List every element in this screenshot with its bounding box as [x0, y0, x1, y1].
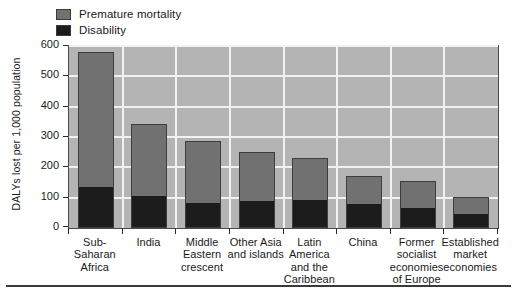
bar-segment-premature-mortality	[346, 176, 382, 205]
category-label-line: market	[439, 248, 501, 260]
category-label-line: Other Asia	[225, 236, 287, 248]
x-tick-3	[229, 228, 230, 234]
category-label-line: Caribbean	[279, 273, 341, 285]
x-tick-5	[336, 228, 337, 234]
bar-1	[131, 124, 167, 228]
vertical-gridline-4	[283, 46, 285, 228]
bar-segment-premature-mortality	[131, 124, 167, 196]
bar-segment-premature-mortality	[453, 197, 489, 213]
bar-6	[400, 181, 436, 228]
x-tick-1	[122, 228, 123, 234]
legend-swatch-premature-mortality	[56, 9, 71, 20]
y-tick-label-500: 500	[25, 69, 59, 80]
category-label-6: Formersocialisteconomiesof Europe	[386, 236, 448, 286]
category-label-line: China	[332, 236, 394, 248]
bar-7	[453, 197, 489, 228]
category-label-1: India	[118, 236, 180, 248]
chart-figure: Premature mortality Disability DALYs los…	[0, 0, 521, 298]
bar-segment-disability	[131, 196, 167, 228]
category-label-5: China	[332, 236, 394, 248]
bar-0	[78, 52, 114, 228]
bar-5	[346, 176, 382, 228]
y-axis-title: DALYs lost per 1,000 population	[10, 44, 22, 224]
bottom-rule	[6, 285, 511, 287]
category-label-line: India	[118, 236, 180, 248]
category-label-line: of Europe	[386, 273, 448, 285]
bar-segment-disability	[185, 203, 221, 228]
category-label-line: economies	[386, 261, 448, 273]
vertical-gridline-2	[175, 46, 177, 228]
x-tick-4	[283, 228, 284, 234]
vertical-gridline-1	[122, 46, 124, 228]
category-label-line: socialist	[386, 248, 448, 260]
vertical-gridline-3	[229, 46, 231, 228]
category-label-line: and islands	[225, 248, 287, 260]
x-tick-7	[443, 228, 444, 234]
bar-segment-disability	[400, 208, 436, 228]
category-label-3: Other Asiaand islands	[225, 236, 287, 261]
bar-2	[185, 141, 221, 228]
bar-segment-premature-mortality	[400, 181, 436, 208]
bar-segment-disability	[78, 187, 114, 228]
x-tick-end	[497, 228, 498, 234]
bar-segment-disability	[346, 204, 382, 228]
chart-legend: Premature mortality Disability	[56, 7, 181, 39]
category-label-line: Latin	[279, 236, 341, 248]
bar-segment-premature-mortality	[185, 141, 221, 203]
category-label-line: Former	[386, 236, 448, 248]
bar-3	[239, 152, 275, 228]
plot-area	[68, 45, 499, 229]
y-tick-label-100: 100	[25, 191, 59, 202]
y-axis: 0100200300400500600	[28, 45, 68, 227]
y-tick-label-600: 600	[25, 39, 59, 50]
bar-segment-premature-mortality	[239, 152, 275, 201]
category-label-line: America	[279, 248, 341, 260]
bar-segment-disability	[239, 201, 275, 228]
category-label-2: MiddleEasterncrescent	[171, 236, 233, 273]
legend-label-premature-mortality: Premature mortality	[79, 8, 181, 20]
category-label-0: Sub-SaharanAfrica	[64, 236, 126, 273]
x-tick-0	[68, 228, 69, 234]
category-label-line: and the	[279, 261, 341, 273]
category-label-line: Middle	[171, 236, 233, 248]
bar-4	[292, 158, 328, 228]
vertical-gridline-7	[443, 46, 445, 228]
category-label-line: Established	[439, 236, 501, 248]
x-axis-ticks	[68, 228, 499, 234]
bar-segment-disability	[292, 200, 328, 228]
category-label-7: Establishedmarketeconomies	[439, 236, 501, 273]
vertical-gridline-6	[390, 46, 392, 228]
x-tick-6	[390, 228, 391, 234]
y-tick-label-0: 0	[25, 221, 59, 232]
bar-segment-premature-mortality	[292, 158, 328, 200]
y-tick-label-200: 200	[25, 160, 59, 171]
vertical-gridline-5	[336, 46, 338, 228]
y-tick-label-400: 400	[25, 100, 59, 111]
bar-segment-premature-mortality	[78, 52, 114, 187]
legend-item-premature-mortality: Premature mortality	[56, 7, 181, 21]
legend-item-disability: Disability	[56, 23, 181, 37]
category-label-line: Sub-Saharan	[64, 236, 126, 261]
category-label-line: crescent	[171, 261, 233, 273]
category-label-4: LatinAmericaand theCaribbean	[279, 236, 341, 286]
y-tick-label-300: 300	[25, 130, 59, 141]
legend-label-disability: Disability	[79, 24, 126, 36]
x-tick-2	[175, 228, 176, 234]
legend-swatch-disability	[56, 25, 71, 36]
category-label-line: economies	[439, 261, 501, 273]
bar-segment-disability	[453, 214, 489, 228]
category-label-line: Africa	[64, 261, 126, 273]
category-label-line: Eastern	[171, 248, 233, 260]
